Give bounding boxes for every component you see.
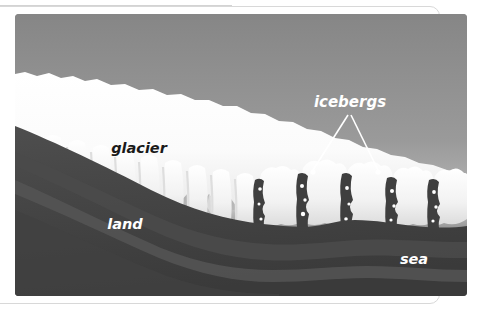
label-glacier: glacier	[111, 140, 168, 156]
leader-dot-right	[375, 169, 380, 174]
label-icebergs: icebergs	[314, 93, 386, 111]
label-sea: sea	[400, 251, 428, 267]
leader-dot-left	[310, 169, 315, 174]
page-root: .	[0, 0, 482, 312]
margin-clipped-glyph: .	[0, 203, 6, 221]
label-land: land	[107, 216, 143, 232]
glacier-illustration: icebergs glacier land sea	[15, 14, 467, 296]
